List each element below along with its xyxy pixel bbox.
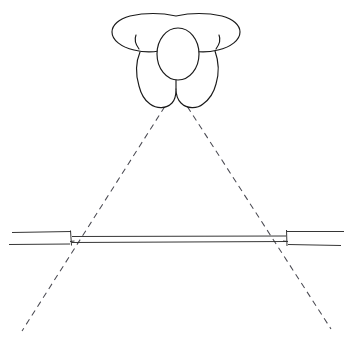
right-rail-bottom-line — [288, 245, 341, 246]
left-post-inner-tick — [70, 241, 75, 242]
beam-bottom-line — [72, 242, 287, 243]
sight-line-left — [22, 89, 176, 331]
sight-line-right — [176, 89, 331, 329]
left-rail-top-line — [12, 232, 71, 233]
line-art-diagram — [0, 0, 352, 342]
horizontal-bar-structure — [9, 230, 344, 246]
head-ellipse — [157, 28, 199, 80]
right-post-inner-tick — [283, 241, 288, 242]
beam-top-line — [72, 236, 286, 237]
dashed-sight-lines — [22, 89, 331, 331]
left-rail-bottom-line — [9, 244, 70, 245]
diagram-canvas: Overhead view of a person facing a horiz… — [0, 0, 352, 342]
right-end-post — [287, 230, 288, 246]
person-top-view — [112, 14, 240, 108]
left-end-post — [71, 231, 72, 246]
